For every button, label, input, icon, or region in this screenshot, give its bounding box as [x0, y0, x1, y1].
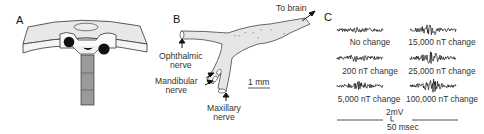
ophthalmic-line2: nerve — [159, 61, 202, 70]
trace-waveform — [410, 52, 456, 64]
trace-waveform — [337, 81, 383, 89]
trace-waveform — [410, 79, 456, 92]
scale-voltage-label: 2mV — [386, 107, 403, 117]
scale-1mm-label: 1 mm — [248, 78, 269, 87]
trace-label-15000nt: 15,000 nT change — [400, 37, 484, 47]
skull-section-diagram — [23, 20, 147, 105]
mandibular-line2: nerve — [155, 86, 198, 95]
ophthalmic-nerve-label: Ophthalmic nerve — [159, 52, 202, 70]
trace-label-200nt: 200 nT change — [333, 66, 407, 76]
trace-waveform — [337, 27, 383, 32]
to-brain-label: To brain — [276, 4, 307, 13]
trace-waveform — [410, 25, 456, 35]
trace-label-100000nt: 100,000 nT change — [398, 94, 484, 104]
trace-label-25000nt: 25,000 nT change — [400, 66, 484, 76]
scale-time-label: 50 msec — [387, 122, 419, 132]
maxillary-line2: nerve — [207, 113, 241, 122]
maxillary-nerve-label: Maxillary nerve — [207, 104, 241, 122]
trace-waveform — [337, 55, 383, 62]
mandibular-nerve-label: Mandibular nerve — [155, 77, 198, 95]
nerve-recording-traces — [337, 25, 456, 92]
trace-label-no-change: No change — [340, 37, 400, 47]
